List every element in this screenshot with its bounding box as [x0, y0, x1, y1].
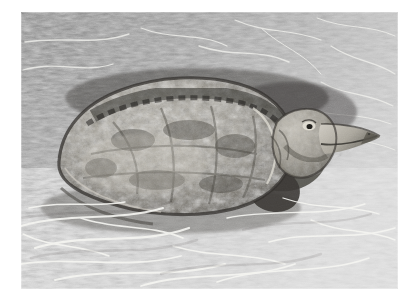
film-grain: [21, 12, 398, 289]
photograph: [21, 12, 398, 289]
photo-page: Snapping turtle: [0, 0, 420, 302]
photo-canvas: [21, 12, 398, 289]
photo-content: [21, 12, 398, 289]
